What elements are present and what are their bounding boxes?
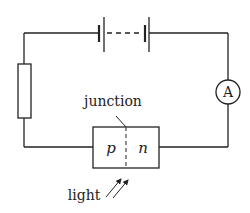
- junction-leader-line: [116, 116, 126, 127]
- ammeter-symbol: A: [222, 84, 234, 100]
- junction-label: junction: [82, 93, 142, 109]
- pn-junction: p n: [93, 127, 159, 168]
- wire-left: [24, 33, 93, 147]
- light-arrows-icon: [106, 179, 128, 198]
- resistor: [18, 64, 31, 118]
- battery: [99, 17, 149, 52]
- n-region-label: n: [138, 139, 148, 157]
- p-region-label: p: [106, 139, 116, 157]
- ammeter: A: [216, 80, 240, 104]
- light-label: light: [68, 187, 101, 203]
- circuit-diagram: A p n junction light: [0, 0, 250, 213]
